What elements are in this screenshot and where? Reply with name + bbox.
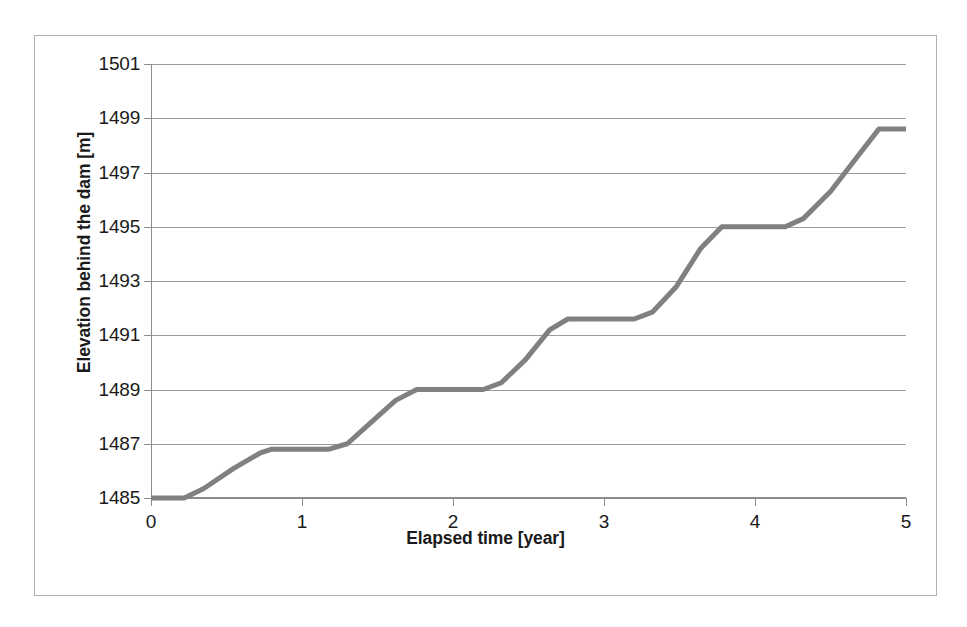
x-tick-label-0: 0	[146, 511, 156, 533]
x-axis-title: Elapsed time [year]	[35, 528, 936, 549]
y-tick-mark-1489	[144, 390, 151, 391]
y-tick-label-1489: 1489	[99, 379, 140, 401]
x-tick-label-1: 1	[297, 511, 307, 533]
x-tick-label-2: 2	[448, 511, 458, 533]
x-tick-mark-2	[453, 498, 454, 506]
y-tick-label-1491: 1491	[99, 324, 140, 346]
y-tick-label-1487: 1487	[99, 433, 140, 455]
y-tick-mark-1499	[144, 118, 151, 119]
y-tick-mark-1497	[144, 173, 151, 174]
x-tick-mark-5	[906, 498, 907, 506]
gridline-y-1485	[151, 498, 906, 499]
y-tick-label-1499: 1499	[99, 107, 140, 129]
y-tick-label-1493: 1493	[99, 270, 140, 292]
elevation-series-polyline	[151, 129, 906, 498]
x-tick-label-3: 3	[599, 511, 609, 533]
y-axis-title: Elevation behind the dam [m]	[74, 53, 95, 453]
y-tick-mark-1487	[144, 444, 151, 445]
x-tick-mark-4	[755, 498, 756, 506]
plot-area: 148514871489149114931495149714991501 012…	[151, 64, 906, 498]
x-tick-label-5: 5	[901, 511, 911, 533]
y-tick-label-1501: 1501	[99, 53, 140, 75]
y-tick-mark-1493	[144, 281, 151, 282]
y-tick-mark-1501	[144, 64, 151, 65]
x-tick-mark-1	[302, 498, 303, 506]
y-tick-label-1497: 1497	[99, 162, 140, 184]
y-tick-mark-1495	[144, 227, 151, 228]
x-tick-mark-3	[604, 498, 605, 506]
y-tick-label-1485: 1485	[99, 487, 140, 509]
x-tick-label-4: 4	[750, 511, 760, 533]
y-tick-mark-1491	[144, 335, 151, 336]
y-tick-label-1495: 1495	[99, 216, 140, 238]
data-series-line	[151, 64, 906, 498]
chart-figure-frame: Elevation behind the dam [m] Elapsed tim…	[34, 35, 937, 596]
y-tick-mark-1485	[144, 498, 151, 499]
